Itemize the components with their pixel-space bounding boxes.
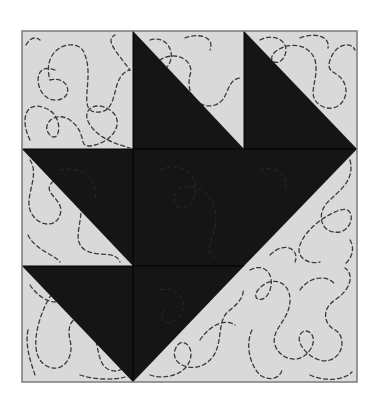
center-square xyxy=(133,149,244,266)
quilt-block-diagram xyxy=(0,0,383,403)
